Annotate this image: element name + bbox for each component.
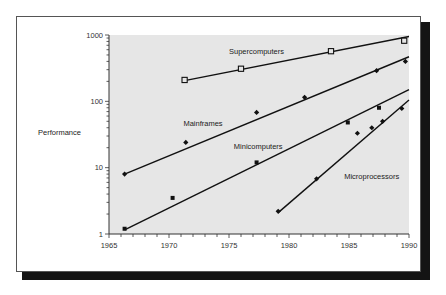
x-tick-label: 1970 (161, 241, 178, 250)
x-tick-label: 1990 (401, 241, 418, 250)
filled-square-marker (346, 120, 350, 124)
plot-area (109, 35, 409, 234)
y-tick-label: 1000 (86, 31, 103, 40)
x-tick-label: 1985 (341, 241, 358, 250)
x-tick-label: 1965 (101, 241, 118, 250)
filled-square-marker (377, 106, 381, 110)
y-tick-label: 10 (95, 163, 103, 172)
open-square-marker (328, 49, 333, 54)
y-axis-title: Performance (38, 128, 81, 137)
series-label: Minicomputers (234, 142, 283, 151)
open-square-marker (182, 77, 187, 82)
x-tick-label: 1980 (281, 241, 298, 250)
filled-square-marker (123, 227, 127, 231)
series-label: Supercomputers (229, 47, 284, 56)
open-square-marker (402, 38, 407, 43)
x-tick-label: 1975 (221, 241, 238, 250)
y-tick-label: 1 (99, 230, 103, 239)
open-square-marker (238, 66, 243, 71)
y-tick-label: 100 (90, 97, 103, 106)
series-label: Microprocessors (344, 172, 399, 181)
series-label: Mainframes (183, 119, 222, 128)
performance-chart: 1101001000196519701975198019851990 Super… (0, 0, 446, 295)
filled-square-marker (255, 160, 259, 164)
filled-square-marker (171, 196, 175, 200)
